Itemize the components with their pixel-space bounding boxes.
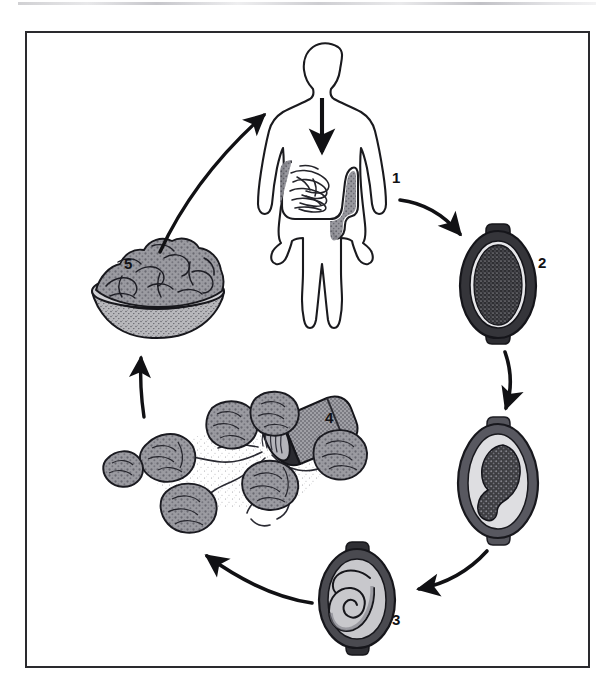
- arrow-cleaving-to-egg3: [419, 551, 487, 589]
- stage-label-2: 2: [538, 255, 546, 270]
- developing-cleaving-egg: [458, 417, 538, 545]
- stage-3-embryonated-egg: [319, 542, 395, 655]
- arrow-human-to-egg2: [400, 200, 460, 234]
- stage-1-human-host: [258, 43, 386, 328]
- egg2-contents: [474, 245, 522, 325]
- stage-2-unembryonated-egg: [460, 224, 536, 344]
- stage-label-1: 1: [392, 170, 400, 185]
- arrow-egg2-to-cleaving: [505, 352, 510, 408]
- life-cycle-diagram: [0, 0, 609, 687]
- stage-label-4: 4: [325, 410, 333, 425]
- stage-5-salad-bowl: [92, 239, 224, 338]
- stage-label-3: 3: [392, 612, 400, 627]
- arrow-salad-to-human: [160, 115, 264, 252]
- stage-label-5: 5: [124, 256, 132, 271]
- arrow-egg3-to-soil: [207, 556, 312, 603]
- arrow-soil-to-salad: [141, 358, 144, 417]
